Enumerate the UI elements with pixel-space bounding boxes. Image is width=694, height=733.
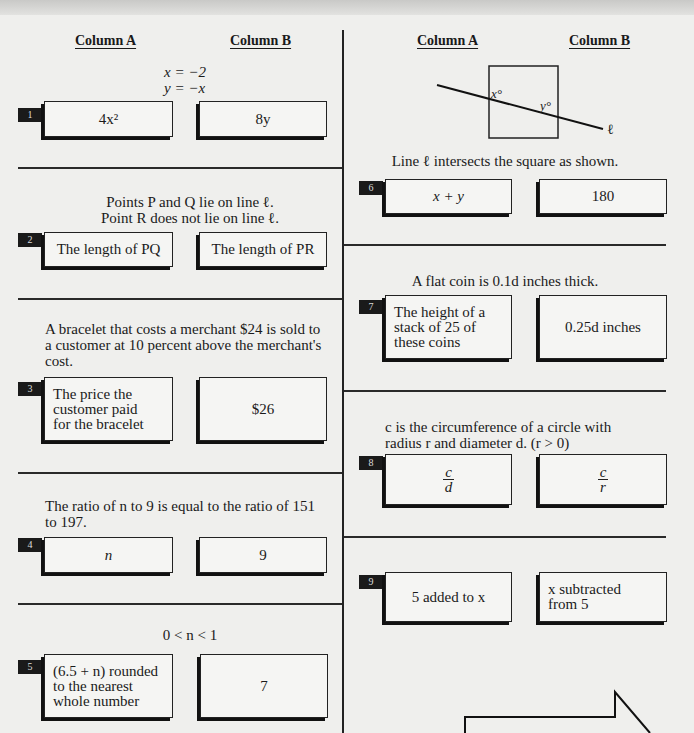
column-b-box: x subtracted from 5 [539,572,667,622]
question-number-badge: 6 [359,181,383,195]
question-number-badge: 8 [359,456,383,470]
column-b-box: 180 [539,179,667,214]
question-number-badge: 7 [359,300,383,314]
column-a-box: x + y [385,179,512,214]
angle-y-label: y° [540,98,551,114]
column-a-box: The height of a stack of 25 of these coi… [385,295,512,359]
column-a-box: c d [385,454,512,505]
column-a-box: 5 added to x [385,572,512,622]
fraction-c-over-r: c r [598,465,609,494]
line-l-label: ℓ [607,122,614,138]
question-stem: A flat coin is 0.1d inches thick. [344,273,666,289]
question-stem: c is the circumference of a circle with … [385,419,675,451]
line-l [437,85,603,129]
column-b-box: c r [539,454,667,505]
column-b-box: 0.25d inches [539,295,667,359]
question-stem: Line ℓ intersects the square as shown. [344,153,666,169]
question-number-badge: 9 [359,575,383,589]
fraction-c-over-d: c d [443,465,454,494]
angle-x-label: x° [491,86,502,102]
square-line-figure [0,0,694,733]
